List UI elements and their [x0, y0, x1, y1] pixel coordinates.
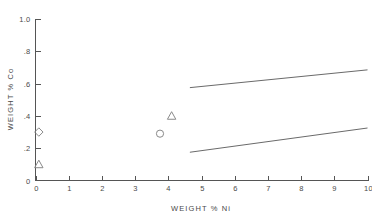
scatter-plot-figure: 0.2.4.6.81.0 012345678910 WEIGHT % Ni WE…: [0, 0, 372, 220]
x-tick-label: 4: [166, 184, 170, 193]
x-tick-label: 8: [299, 184, 303, 193]
y-tick-label: .6: [24, 80, 31, 89]
x-tick-label: 2: [100, 184, 104, 193]
data-point-circle: [156, 130, 163, 137]
y-tick-label: .8: [24, 47, 31, 56]
x-tick-label: 9: [332, 184, 336, 193]
x-axis-tick-labels: 012345678910: [34, 184, 372, 193]
x-tick-label: 10: [364, 184, 372, 193]
x-axis-title: WEIGHT % Ni: [171, 204, 231, 213]
y-axis-tick-labels: 0.2.4.6.81.0: [19, 15, 30, 186]
plot-canvas: 0.2.4.6.81.0 012345678910 WEIGHT % Ni WE…: [0, 0, 372, 220]
y-tick-label: .2: [24, 144, 31, 153]
x-axis: 012345678910: [34, 176, 372, 193]
x-tick-label: 0: [34, 184, 38, 193]
boundary-line: [190, 128, 368, 152]
data-point-markers: [35, 112, 176, 168]
boundary-line: [190, 70, 368, 88]
y-axis: 0.2.4.6.81.0: [19, 15, 40, 186]
y-tick-label: 1.0: [19, 15, 30, 24]
x-tick-label: 7: [266, 184, 270, 193]
x-tick-label: 1: [67, 184, 71, 193]
x-tick-label: 5: [200, 184, 204, 193]
y-tick-label: .4: [24, 112, 31, 121]
x-axis-ticks: [37, 176, 369, 181]
x-tick-label: 6: [233, 184, 237, 193]
data-point-triangle: [167, 112, 175, 120]
y-tick-label: 0: [26, 177, 30, 186]
y-axis-title: WEIGHT % Co: [6, 68, 15, 130]
x-tick-label: 3: [133, 184, 137, 193]
boundary-lines: [190, 70, 368, 152]
